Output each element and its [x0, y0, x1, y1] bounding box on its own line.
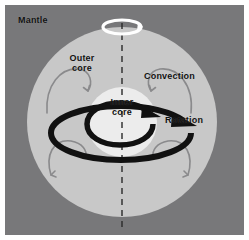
label-rotation: Rotation — [165, 115, 203, 125]
label-outer-core-line2: core — [60, 63, 104, 73]
diagram-panel: Mantle Outer core Inner core Convection … — [5, 5, 244, 235]
label-inner-core-line2: core — [101, 107, 143, 117]
label-inner-core-line1: Inner — [101, 97, 143, 107]
label-convection: Convection — [144, 71, 195, 81]
diagram-graphics — [5, 5, 244, 235]
earth-core-diagram: Mantle Outer core Inner core Convection … — [0, 0, 249, 240]
label-outer-core-line1: Outer — [60, 53, 104, 63]
label-outer-core: Outer core — [60, 53, 104, 73]
label-mantle: Mantle — [18, 15, 48, 25]
label-inner-core: Inner core — [101, 97, 143, 117]
